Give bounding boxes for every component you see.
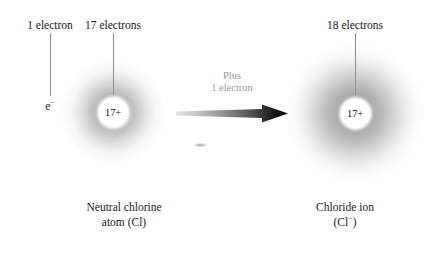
nucleus-left: 17+ (99, 98, 128, 127)
nucleus-right: 17+ (341, 99, 370, 128)
caption-right-formula-prefix: (Cl (334, 216, 349, 228)
smudge-artifact (194, 143, 207, 147)
transition-arrow (176, 104, 288, 123)
caption-left-atom: Neutral chlorine atom (Cl) (86, 200, 161, 230)
label-eighteen-electrons: 18 electrons (327, 19, 383, 31)
free-electron-symbol: e− (45, 100, 55, 112)
nucleus-left-charge: 17+ (105, 107, 121, 118)
label-one-electron: 1 electron (27, 19, 73, 31)
caption-left-line1: Neutral chlorine (86, 200, 161, 215)
arrow-shape (176, 105, 288, 123)
chlorine-ion-diagram: 1 electron 17 electrons e− 17+ Plus 1 el… (0, 0, 427, 258)
arrow-label-line1: Plus (176, 70, 288, 82)
leader-line-one-electron (50, 33, 51, 96)
caption-right-formula-suffix: ) (353, 216, 357, 228)
nucleus-right-charge: 17+ (347, 108, 363, 119)
caption-right-line2: (Cl−) (316, 215, 374, 230)
caption-left-line2: atom (Cl) (86, 215, 161, 230)
leader-line-seventeen-electrons (113, 33, 114, 105)
transition-arrow-svg (176, 104, 288, 123)
label-seventeen-electrons: 17 electrons (85, 19, 141, 31)
leader-line-eighteen-electrons (355, 33, 356, 96)
caption-right-ion: Chloride ion (Cl−) (316, 200, 374, 230)
caption-right-line1: Chloride ion (316, 200, 374, 215)
arrow-label-line2: 1 electron (176, 82, 288, 94)
electron-symbol-charge: − (50, 98, 54, 107)
